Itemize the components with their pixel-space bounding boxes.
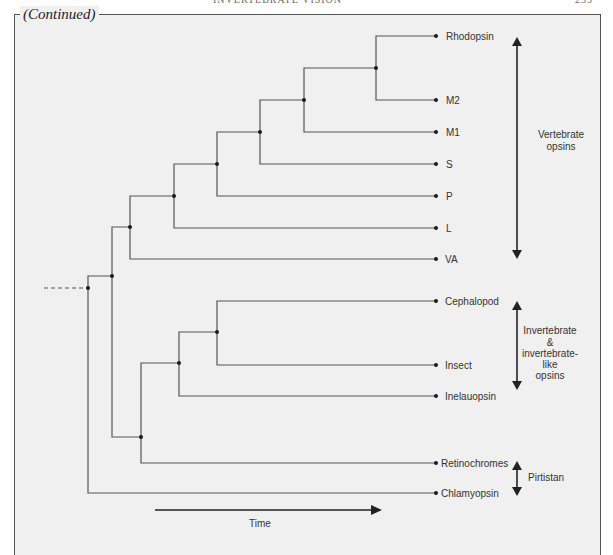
group-arrows	[512, 37, 522, 496]
node	[374, 66, 378, 70]
node	[128, 225, 132, 229]
tree-branches	[44, 36, 436, 493]
arrow-down-icon	[512, 381, 522, 390]
arrow-right-icon	[371, 505, 382, 515]
leaf-label-rhodopsin: Rhodopsin	[446, 31, 494, 42]
leaf-dot	[434, 299, 438, 303]
leaf-label-p: P	[446, 191, 453, 202]
leaf-dot	[434, 194, 438, 198]
node	[215, 330, 219, 334]
leaf-dot	[434, 394, 438, 398]
time-axis-label: Time	[249, 518, 271, 529]
leaf-labels: Rhodopsin M2 M1 S P L VA Cephalopod Inse…	[441, 31, 508, 499]
leaf-dot	[434, 257, 438, 261]
time-axis: Time	[155, 505, 382, 529]
leaf-label-m2: M2	[446, 95, 460, 106]
leaf-dot	[434, 98, 438, 102]
leaf-label-chlamyopsin: Chlamyopsin	[441, 488, 499, 499]
leaf-dot	[434, 363, 438, 367]
node	[215, 162, 219, 166]
group-label-invertebrate-line4: like	[542, 359, 557, 370]
leaf-dot	[434, 162, 438, 166]
leaf-label-insect: Insect	[445, 360, 472, 371]
leaf-label-l: L	[446, 223, 452, 234]
group-label-invertebrate-line2: &	[547, 337, 554, 348]
node	[139, 435, 143, 439]
branch-cephalopod-insect	[217, 301, 436, 365]
branch-rhodopsin-m2	[376, 36, 436, 100]
group-label-vertebrate-line2: opsins	[547, 141, 576, 152]
root-node	[86, 286, 90, 290]
group-labels: Vertebrate opsins Invertebrate & inverte…	[522, 129, 585, 483]
group-label-invertebrate-line3: invertebrate-	[522, 348, 578, 359]
group-label-pirtistan: Pirtistan	[528, 472, 564, 483]
leaf-label-m1: M1	[446, 127, 460, 138]
leaf-dot	[434, 130, 438, 134]
arrow-up-icon	[512, 461, 522, 470]
node	[177, 361, 181, 365]
node	[172, 194, 176, 198]
arrow-up-icon	[512, 37, 522, 46]
leaf-dot	[434, 491, 438, 495]
leaf-label-inelauopsin: Inelauopsin	[445, 391, 496, 402]
group-label-vertebrate-line1: Vertebrate	[538, 129, 585, 140]
tree-nodes	[86, 34, 438, 495]
node	[110, 274, 114, 278]
arrow-up-icon	[512, 301, 522, 310]
leaf-dot	[434, 34, 438, 38]
continued-label: (Continued)	[20, 6, 99, 22]
leaf-label-retinochromes: Retinochromes	[441, 458, 508, 469]
leaf-label-s: S	[446, 159, 453, 170]
group-label-invertebrate-line5: opsins	[536, 370, 565, 381]
branch-chlamyopsin	[88, 276, 436, 493]
leaf-dot	[434, 461, 438, 465]
leaf-dot	[434, 226, 438, 230]
arrow-down-icon	[512, 487, 522, 496]
node	[302, 98, 306, 102]
leaf-label-cephalopod: Cephalopod	[445, 296, 499, 307]
branch-retinochromes	[141, 363, 436, 463]
arrow-down-icon	[512, 250, 522, 259]
node	[258, 130, 262, 134]
group-label-invertebrate-line1: Invertebrate	[523, 325, 577, 336]
leaf-label-va: VA	[445, 254, 458, 265]
